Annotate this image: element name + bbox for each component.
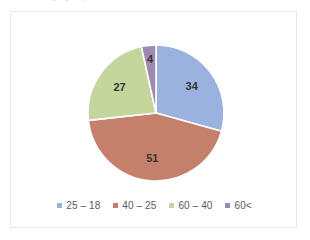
legend-item[interactable]: 60 – 40 — [169, 200, 212, 211]
legend-swatch-icon — [113, 203, 118, 208]
legend-item-label: 60< — [234, 200, 251, 211]
legend-swatch-icon — [169, 203, 174, 208]
pie-slice-label: 34 — [186, 80, 199, 92]
legend-swatch-icon — [225, 203, 230, 208]
legend-item-label: 60 – 40 — [178, 200, 212, 211]
legend-item-label: 40 – 25 — [122, 200, 156, 211]
pie-chart-svg: 3451274 — [11, 12, 298, 192]
legend-item-label: 25 – 18 — [66, 200, 100, 211]
legend-item[interactable]: 60< — [225, 200, 251, 211]
legend-item[interactable]: 25 – 18 — [57, 200, 100, 211]
chart-frame: 3451274 25 – 1840 – 2560 – 4060< — [10, 11, 297, 228]
legend-swatch-icon — [57, 203, 62, 208]
chart-legend: 25 – 1840 – 2560 – 4060< — [11, 194, 298, 216]
pie-slice-label: 27 — [113, 81, 125, 93]
pie-slice-label: 4 — [147, 53, 154, 65]
clipped-caption-text: age groups — [46, 0, 93, 2]
pie-chart-plot-area: 3451274 — [11, 12, 298, 192]
legend-item[interactable]: 40 – 25 — [113, 200, 156, 211]
pie-slice-label: 51 — [146, 152, 158, 164]
